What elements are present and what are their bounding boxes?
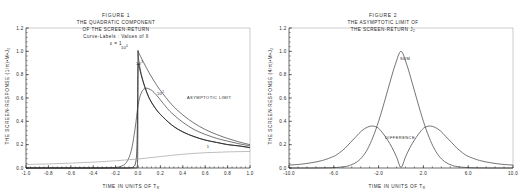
figure-1-curve-group [26, 50, 250, 168]
figure-1-ytick-label: 0.6 [16, 96, 23, 101]
figure-2-xtick-label: 6.0 [465, 171, 472, 176]
figure-1-xtick-label: -1.0 [22, 171, 31, 176]
figure-1-title-line1: FIGURE 1 [102, 13, 130, 18]
figure-1-plot: 0.00.20.40.60.81.01.2-1.0-0.8-0.6-0.4-0.… [0, 0, 263, 196]
figure-2-title-line2: THE ASYMPTOTIC LIMIT OF [348, 20, 419, 25]
figure-1-ytick-label: 0.8 [16, 72, 23, 77]
figure-1-ytick-label: 1.0 [16, 49, 23, 54]
figure-1-xtick-label: 1.0 [246, 171, 253, 176]
figure-2-title-line3: THE SCREEN-RETURN J2 [351, 27, 416, 33]
figure-2-title-line1: FIGURE 2 [369, 13, 397, 18]
figure-1-title-line3: OF THE SCREEN-RETURN [83, 27, 150, 32]
figure-2-tick-labels: 0.00.20.40.60.81.01.2-10.0-6.0-2.02.06.0… [279, 26, 518, 176]
figure-1-xtick-label: -0.8 [44, 171, 53, 176]
figure-1-curve-label-10-2: 102 [157, 90, 164, 96]
figure-2-curve [289, 126, 513, 167]
figure-2-ytick-label: 0.0 [279, 166, 286, 171]
figure-2-axes [289, 28, 513, 168]
figure-2-curve [289, 51, 513, 168]
figure-page: 0.00.20.40.60.81.01.2-1.0-0.8-0.6-0.4-0.… [0, 0, 526, 196]
figure-1-curve-label-1: 1 [207, 144, 210, 149]
figure-1-ytick-label: 1.2 [16, 26, 23, 31]
figure-2-xtick-label: -10.0 [283, 171, 295, 176]
figure-2-ytick-label: 0.8 [279, 72, 286, 77]
figure-1-xtick-label: 0.6 [202, 171, 209, 176]
figure-1-xtick-label: 0.2 [157, 171, 164, 176]
figure-1-xlabel: TIME IN UNITS OF TR [102, 184, 159, 190]
figure-1-title-line4: Curve-Labels : Values of δ [83, 34, 149, 39]
figure-1-xtick-label: 0.0 [134, 171, 141, 176]
figure-1-curve-label-10-3: 103 [136, 60, 143, 66]
figure-2-panel: 0.00.20.40.60.81.01.2-10.0-6.0-2.02.06.0… [263, 0, 526, 196]
figure-1-xtick-label: -0.6 [66, 171, 75, 176]
figure-1-ytick-label: 0.4 [16, 119, 23, 124]
figure-1-xtick-label: 0.4 [179, 171, 186, 176]
figure-1-tick-labels: 0.00.20.40.60.81.01.2-1.0-0.8-0.6-0.4-0.… [16, 26, 253, 176]
figure-1-ytick-label: 0.0 [16, 166, 23, 171]
figure-2-xtick-label: 2.0 [420, 171, 427, 176]
figure-2-ytick-label: 1.2 [279, 26, 286, 31]
figure-1-ylabel: THE SCREEN-RESPONSE (1/π)•M•J2 [5, 47, 11, 144]
figure-1-xtick-label: -0.4 [89, 171, 98, 176]
figure-2-ytick-label: 0.6 [279, 96, 286, 101]
figure-2-xtick-label: 10.0 [508, 171, 518, 176]
figure-1-title-line2: THE QUADRATIC COMPONENT [77, 20, 156, 25]
figure-1-panel: 0.00.20.40.60.81.01.2-1.0-0.8-0.6-0.4-0.… [0, 0, 263, 196]
figure-2-ylabel: THE SCREEN-RESPONSE (4/π)•M•J2 [268, 47, 274, 144]
figure-2-ytick-label: 1.0 [279, 49, 286, 54]
figure-2-plot: 0.00.20.40.60.81.01.2-10.0-6.0-2.02.06.0… [263, 0, 526, 196]
figure-2-curve-group [289, 51, 513, 168]
figure-2-sum-label: SUM [400, 56, 410, 61]
figure-2-difference-label: DIFFERENCE [385, 135, 415, 140]
figure-1-xtick-label: -0.2 [111, 171, 120, 176]
figure-1-asymptotic-limit-label: ASYMPTOTIC LIMIT [187, 95, 232, 100]
figure-1-ytick-label: 0.2 [16, 142, 23, 147]
figure-1-curve-label-10-4: 104 [121, 44, 128, 50]
figure-2-xlabel: TIME IN UNITS OF TR [368, 184, 425, 190]
figure-1-xtick-label: 0.8 [224, 171, 231, 176]
figure-2-ytick-label: 0.2 [279, 142, 286, 147]
figure-1-ylabel-group: THE SCREEN-RESPONSE (1/π)•M•J2 [5, 47, 11, 144]
figure-2-xtick-label: -2.0 [374, 171, 383, 176]
figure-2-ylabel-group: THE SCREEN-RESPONSE (4/π)•M•J2 [268, 47, 274, 144]
figure-2-ytick-label: 0.4 [279, 119, 286, 124]
figure-2-xtick-label: -6.0 [329, 171, 338, 176]
